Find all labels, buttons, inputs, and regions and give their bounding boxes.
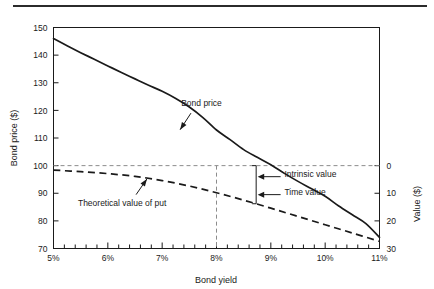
y2-tick-label: 10: [387, 188, 397, 198]
y-tick-label: 110: [34, 133, 48, 143]
y-tick-label: 70: [38, 244, 48, 254]
y-axis-major-ticks: [54, 28, 59, 249]
bond-price-arrowhead: [180, 122, 186, 130]
secondary-y-axis-title: Value ($): [412, 186, 422, 222]
secondary-y-axis-tick-labels: 0102030: [387, 161, 397, 254]
theoretical-value-of-put-label: Theoretical value of put: [78, 198, 167, 208]
y-axis-title: Bond price ($): [9, 110, 19, 167]
y-tick-label: 80: [38, 216, 48, 226]
x-tick-label: 11%: [371, 253, 388, 263]
chart-figure: 708090100110120130140150 0102030 5%6%7%8…: [0, 0, 434, 289]
value-decomposition-bracket: [252, 166, 256, 204]
theoretical-put-arrowhead: [140, 179, 146, 187]
y-tick-label: 100: [33, 161, 47, 171]
x-axis-title: Bond yield: [195, 275, 237, 285]
y-tick-label: 130: [33, 78, 47, 88]
y2-tick-label: 30: [387, 244, 397, 254]
y-tick-label: 90: [38, 188, 48, 198]
time-value-arrowhead: [258, 192, 265, 198]
intrinsic-value-label: Intrinsic value: [284, 169, 336, 179]
intrinsic-value-arrowhead: [258, 174, 265, 180]
x-axis-tick-labels: 5%6%7%8%9%10%11%: [47, 253, 388, 263]
y-axis-tick-labels: 708090100110120130140150: [33, 23, 47, 254]
bond-price-put-value-chart: 708090100110120130140150 0102030 5%6%7%8…: [0, 0, 434, 289]
y-tick-label: 120: [33, 106, 47, 116]
time-value-label: Time value: [284, 187, 326, 197]
y2-tick-label: 0: [387, 161, 392, 171]
y2-tick-label: 20: [387, 216, 397, 226]
x-tick-label: 7%: [156, 253, 169, 263]
x-tick-label: 5%: [47, 253, 60, 263]
annotation-leader-arrows: [136, 113, 281, 197]
x-tick-label: 8%: [210, 253, 223, 263]
x-tick-label: 10%: [317, 253, 334, 263]
y-tick-label: 140: [33, 50, 47, 60]
x-tick-label: 9%: [265, 253, 278, 263]
bond-price-label: Bond price: [181, 98, 222, 108]
x-tick-label: 6%: [102, 253, 115, 263]
y-tick-label: 150: [33, 23, 47, 33]
